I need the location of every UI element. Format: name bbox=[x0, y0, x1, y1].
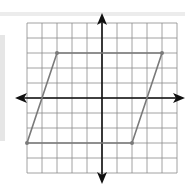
vertex-dot bbox=[25, 141, 29, 145]
vertex-dot bbox=[55, 51, 59, 55]
vertex-dot bbox=[130, 141, 134, 145]
vertex-dot bbox=[160, 51, 164, 55]
coordinate-plane bbox=[0, 0, 185, 184]
